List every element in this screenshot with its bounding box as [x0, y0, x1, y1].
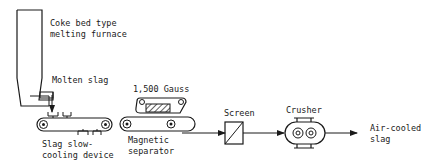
molten-slag-label: Molten slag [52, 75, 108, 85]
slag-molds-top [48, 112, 71, 118]
screen-label: Screen [224, 108, 255, 118]
crusher-label: Crusher [286, 105, 322, 115]
product-label-2: slag [370, 134, 390, 144]
melting-furnace [17, 10, 53, 106]
slag-molds-bottom [78, 129, 101, 135]
furnace-label-2: melting furnace [50, 29, 127, 39]
magnetic-separator-label-1: Magnetic [128, 135, 169, 145]
slag-slow-cooling-conveyor [37, 118, 112, 131]
slow-cooling-label-2: cooling device [42, 150, 114, 160]
magnetic-separator-label-2: separator [128, 146, 174, 156]
slow-cooling-label-1: Slag slow- [42, 139, 93, 149]
magnet-block [146, 104, 170, 112]
crusher-device [285, 118, 325, 148]
magnetic-separator-conveyor [120, 117, 195, 131]
furnace-label-1: Coke bed type [50, 18, 117, 28]
screen-device [225, 122, 243, 144]
gauss-label: 1,500 Gauss [133, 84, 189, 94]
product-label-1: Air-cooled [370, 123, 421, 133]
process-flow-diagram: Coke bed type melting furnace Molten sla… [0, 0, 431, 166]
